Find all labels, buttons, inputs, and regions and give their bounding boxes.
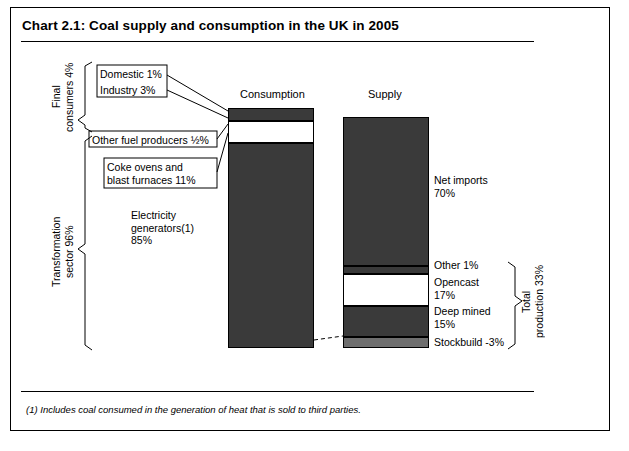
bar-segment-supply-other bbox=[343, 266, 429, 274]
bar-segment-supply-net-imports bbox=[343, 117, 429, 266]
footnote-text: (1) Includes coal consumed in the genera… bbox=[26, 404, 361, 415]
callout-coke-ovens: Coke ovens and blast furnaces 11% bbox=[107, 161, 196, 186]
callout-industry: Industry 3% bbox=[100, 84, 155, 97]
bracket-label-final-consumers: Final consumers 4% bbox=[50, 62, 76, 132]
bar-segment-supply-deep-mined bbox=[343, 306, 429, 337]
chart-page: Chart 2.1: Coal supply and consumption i… bbox=[0, 0, 629, 451]
bar-segment-supply-stockbuild bbox=[343, 337, 429, 348]
label-deep-mined: Deep mined 15% bbox=[434, 305, 491, 330]
bar-segment-consumption-final-consumers bbox=[228, 108, 314, 121]
footnote-divider bbox=[21, 391, 534, 392]
label-opencast: Opencast 17% bbox=[434, 276, 479, 301]
column-header-supply: Supply bbox=[368, 88, 402, 100]
label-stockbuild: Stockbuild -3% bbox=[434, 336, 504, 349]
bar-segment-consumption-other-fuel-and-coke bbox=[228, 121, 314, 143]
bar-segment-supply-opencast bbox=[343, 274, 429, 306]
bar-segment-consumption-electricity-generators bbox=[228, 143, 314, 348]
label-net-imports: Net imports 70% bbox=[434, 174, 488, 199]
callout-other-fuel-producers: Other fuel producers ½% bbox=[92, 134, 209, 147]
label-other: Other 1% bbox=[434, 259, 478, 272]
title-divider bbox=[21, 41, 534, 42]
callout-domestic: Domestic 1% bbox=[100, 68, 162, 81]
bracket-label-total-production: Total production 33% bbox=[520, 262, 546, 342]
column-header-consumption: Consumption bbox=[240, 88, 305, 100]
callout-electricity-generators: Electricity generators(1) 85% bbox=[131, 209, 194, 247]
page-title: Chart 2.1: Coal supply and consumption i… bbox=[22, 18, 399, 33]
bracket-label-transformation-sector: Transformation sector 96% bbox=[50, 192, 76, 312]
